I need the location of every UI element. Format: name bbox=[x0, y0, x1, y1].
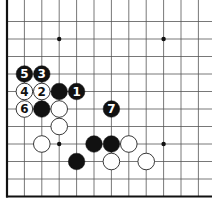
white-stone bbox=[138, 153, 155, 170]
black-stone bbox=[34, 101, 51, 118]
black-stone: 5 bbox=[16, 66, 33, 83]
star-point bbox=[161, 37, 165, 41]
white-stone: 2 bbox=[34, 83, 51, 100]
black-stone: 3 bbox=[34, 66, 51, 83]
white-stone bbox=[121, 136, 138, 153]
move-number-label: 1 bbox=[72, 85, 80, 99]
white-stone bbox=[103, 153, 120, 170]
move-number-label: 4 bbox=[20, 85, 28, 99]
white-stone bbox=[51, 118, 68, 135]
move-number-label: 6 bbox=[20, 102, 28, 116]
move-number-label: 7 bbox=[107, 102, 115, 116]
black-stone bbox=[68, 153, 85, 170]
white-stone bbox=[51, 101, 68, 118]
move-number-label: 5 bbox=[20, 67, 28, 81]
star-point bbox=[57, 142, 61, 146]
black-stone bbox=[86, 136, 103, 153]
stones: 5342167 bbox=[16, 66, 154, 170]
black-stone bbox=[103, 136, 120, 153]
move-number-label: 3 bbox=[38, 67, 46, 81]
white-stone bbox=[34, 136, 51, 153]
white-stone: 6 bbox=[16, 101, 33, 118]
black-stone bbox=[51, 83, 68, 100]
move-number-label: 2 bbox=[38, 85, 46, 99]
star-point bbox=[57, 37, 61, 41]
go-board: 5342167 bbox=[0, 0, 218, 205]
black-stone: 7 bbox=[103, 101, 120, 118]
white-stone: 4 bbox=[16, 83, 33, 100]
star-point bbox=[161, 142, 165, 146]
black-stone: 1 bbox=[68, 83, 85, 100]
